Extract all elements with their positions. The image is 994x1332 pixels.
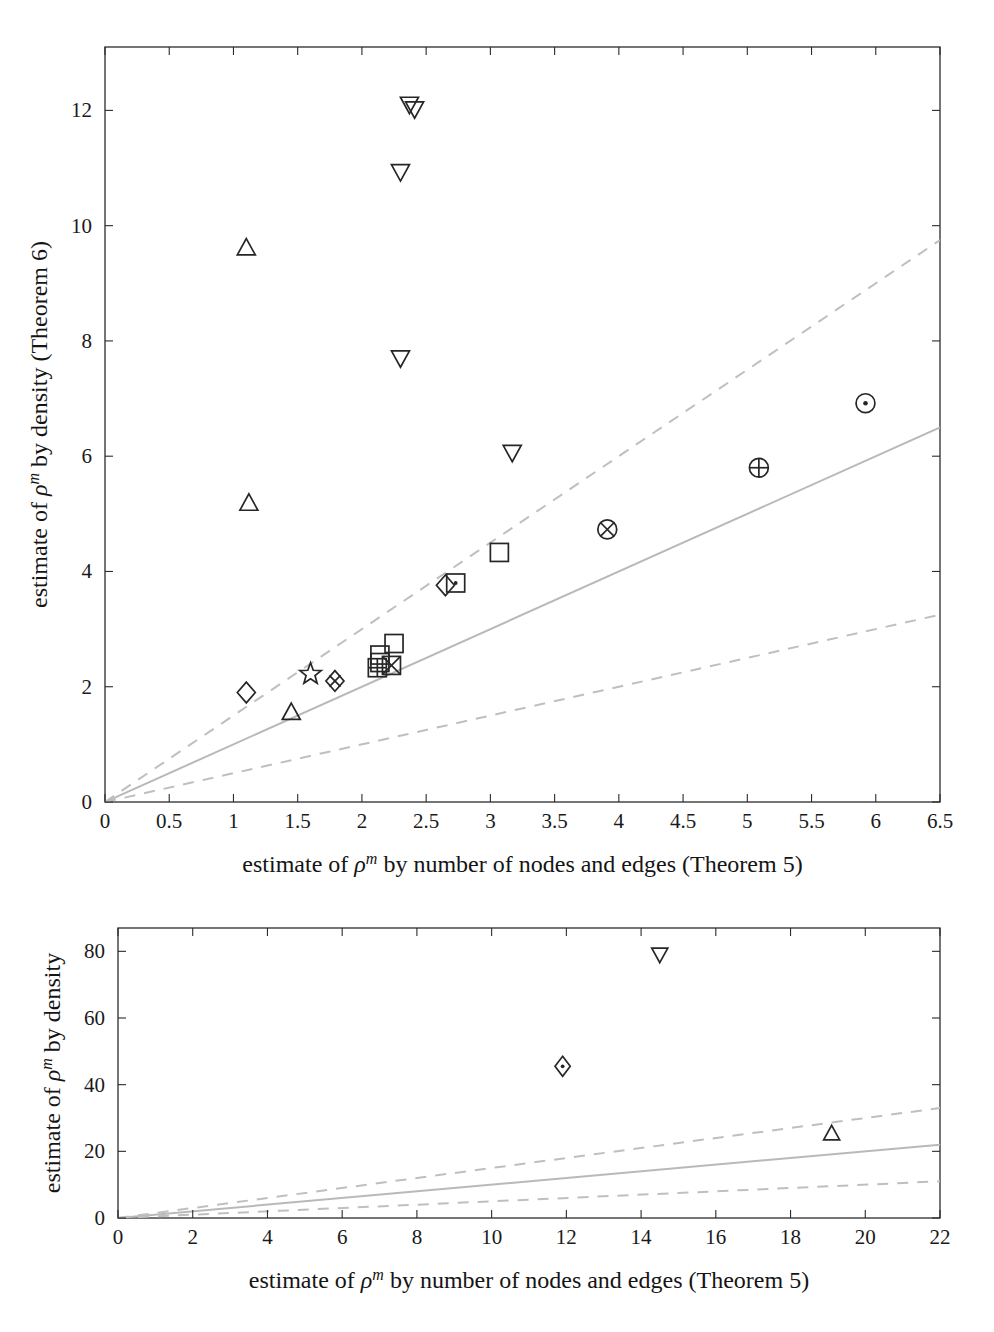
label-exponent: m xyxy=(25,473,42,485)
chart-panel-top: 00.511.522.533.544.555.566.5024681012est… xyxy=(0,0,994,862)
label-exponent: m xyxy=(38,1058,55,1070)
x-tick-label: 2 xyxy=(187,1225,198,1249)
marker-triangle-up xyxy=(282,703,300,719)
plot-frame xyxy=(118,928,940,1218)
chart-svg-top: 00.511.522.533.544.555.566.5024681012est… xyxy=(0,0,994,862)
marker-triangle-up xyxy=(824,1125,840,1140)
marker-diamond xyxy=(237,682,255,703)
label-prefix: estimate of xyxy=(39,1081,65,1193)
x-tick-label: 16 xyxy=(705,1225,726,1249)
y-tick-label: 2 xyxy=(82,675,93,699)
marker-circle-dot-center xyxy=(863,401,868,406)
marker-triangle-down xyxy=(503,445,521,461)
y-tick-label: 4 xyxy=(82,559,93,583)
marker-triangle-up xyxy=(237,239,255,255)
reference-lines-group xyxy=(105,240,940,802)
data-point xyxy=(749,458,768,477)
axis-title-text: estimate of ρm by density xyxy=(38,953,65,1193)
label-suffix: by density xyxy=(39,953,65,1058)
reference-line-upper-bound xyxy=(105,240,940,802)
y-tick-label: 40 xyxy=(84,1073,105,1097)
reference-line-lower-bound xyxy=(118,1181,940,1218)
plot-frame xyxy=(105,47,940,802)
x-tick-label: 1.5 xyxy=(285,809,311,833)
x-tick-label: 18 xyxy=(780,1225,801,1249)
reference-line-identity xyxy=(105,427,940,802)
label-exponent: m xyxy=(372,1266,384,1283)
x-tick-label: 0 xyxy=(113,1225,124,1249)
x-tick-label: 6 xyxy=(337,1225,348,1249)
x-tick-label: 4.5 xyxy=(670,809,696,833)
marker-diamond-dot-center xyxy=(561,1064,565,1068)
y-tick-label: 0 xyxy=(95,1206,106,1230)
x-tick-label: 2 xyxy=(357,809,368,833)
data-point xyxy=(391,351,409,367)
label-symbol: ρ xyxy=(39,1070,65,1083)
x-tick-label: 12 xyxy=(556,1225,577,1249)
data-point xyxy=(447,574,465,592)
data-point xyxy=(555,1056,570,1076)
marker-triangle-down xyxy=(652,948,668,963)
x-tick-label: 8 xyxy=(412,1225,423,1249)
data-point xyxy=(824,1125,840,1140)
x-tick-label: 0 xyxy=(100,809,111,833)
x-tick-label: 2.5 xyxy=(413,809,439,833)
label-suffix: by number of nodes and edges (Theorem 5) xyxy=(384,1267,809,1293)
x-tick-label: 22 xyxy=(930,1225,951,1249)
y-tick-label: 60 xyxy=(84,1006,105,1030)
x-tick-label: 3.5 xyxy=(541,809,567,833)
y-tick-label: 6 xyxy=(82,444,93,468)
marker-triangle-up xyxy=(240,494,258,510)
marker-triangle-down xyxy=(391,165,409,181)
axis-title-text: estimate of ρm by number of nodes and ed… xyxy=(249,1266,809,1293)
marker-triangle-down xyxy=(400,97,418,113)
data-point xyxy=(237,682,255,703)
y-axis-group: 020406080 xyxy=(84,939,940,1230)
data-point xyxy=(652,948,668,963)
y-tick-label: 0 xyxy=(82,790,93,814)
x-tick-label: 6 xyxy=(871,809,882,833)
marker-square xyxy=(490,543,508,561)
label-symbol: ρ xyxy=(26,485,52,498)
x-tick-label: 20 xyxy=(855,1225,876,1249)
marker-star xyxy=(300,663,321,683)
data-point xyxy=(240,494,258,510)
label-symbol: ρ xyxy=(360,1267,373,1293)
x-axis-group: 0246810121416182022 xyxy=(113,928,951,1249)
data-point xyxy=(300,663,321,683)
data-point xyxy=(385,635,403,653)
x-tick-label: 5.5 xyxy=(798,809,824,833)
data-point xyxy=(326,671,344,692)
x-tick-label: 6.5 xyxy=(927,809,953,833)
marker-square xyxy=(385,635,403,653)
marker-triangle-down xyxy=(391,351,409,367)
data-point xyxy=(282,703,300,719)
x-axis-group: 00.511.522.533.544.555.566.5 xyxy=(100,47,953,833)
y-tick-label: 8 xyxy=(82,329,93,353)
reference-line-identity xyxy=(118,1145,940,1218)
data-points-group xyxy=(237,97,875,719)
data-point xyxy=(598,520,617,539)
y-tick-label: 80 xyxy=(84,939,105,963)
reference-lines-group xyxy=(118,1108,940,1218)
x-tick-label: 0.5 xyxy=(156,809,182,833)
label-suffix: by density (Theorem 6) xyxy=(26,241,52,473)
x-tick-label: 14 xyxy=(631,1225,653,1249)
y-axis-group: 024681012 xyxy=(71,98,940,814)
data-point xyxy=(237,239,255,255)
y-tick-label: 10 xyxy=(71,214,92,238)
axis-title-text: estimate of ρm by density (Theorem 6) xyxy=(25,241,52,608)
data-points-group xyxy=(555,948,840,1140)
x-tick-label: 3 xyxy=(485,809,496,833)
reference-line-upper-bound xyxy=(118,1108,940,1218)
data-point xyxy=(503,445,521,461)
data-point xyxy=(490,543,508,561)
chart-panel-bottom: 0246810121416182022020406080estimate of … xyxy=(0,862,994,1332)
data-point xyxy=(391,165,409,181)
x-tick-label: 1 xyxy=(228,809,239,833)
chart-svg-bottom: 0246810121416182022020406080estimate of … xyxy=(0,862,994,1332)
label-prefix: estimate of xyxy=(249,1267,361,1293)
data-point xyxy=(400,97,418,113)
x-tick-label: 4 xyxy=(614,809,625,833)
y-tick-label: 20 xyxy=(84,1139,105,1163)
